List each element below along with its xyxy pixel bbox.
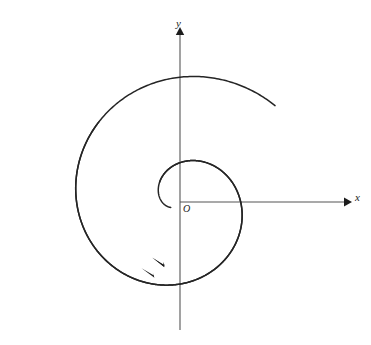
spiral-inner-arm bbox=[76, 122, 242, 285]
spiral-figure: y x O bbox=[0, 0, 371, 345]
figure-canvas bbox=[0, 0, 371, 345]
spiral-outer-arm bbox=[76, 76, 275, 285]
y-axis-label: y bbox=[176, 18, 181, 29]
x-axis-label: x bbox=[355, 192, 360, 203]
x-axis-arrowhead-icon bbox=[344, 198, 352, 207]
origin-label: O bbox=[183, 204, 190, 214]
spiral-direction-arrowhead-lower-shape bbox=[142, 268, 155, 278]
